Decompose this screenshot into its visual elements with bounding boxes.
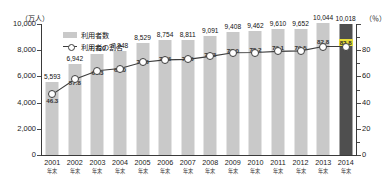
y-tick-left (37, 155, 41, 156)
y-tick-right (357, 155, 361, 156)
y-tick-label-left: 10,000 (2, 19, 36, 28)
legend-item-line: 利用者の割合 (63, 41, 123, 52)
line-marker (184, 55, 192, 63)
legend-label-ratio: 利用者の割合 (81, 42, 123, 52)
y-tick-right (357, 103, 361, 104)
y-tick-label-right: 0 (362, 150, 388, 159)
y-axis-right-unit: （％） (365, 13, 386, 23)
line-marker (274, 47, 282, 55)
y-tick-right (357, 37, 360, 38)
bar-value-label: 10,018 (336, 15, 356, 22)
y-tick-right (357, 50, 361, 51)
y-tick-right (357, 24, 361, 25)
line-marker (93, 67, 101, 75)
bar-value-label: 10,044 (313, 14, 333, 21)
x-axis-sublabel: 年末 (331, 167, 361, 174)
x-axis-label: 2014年末 (331, 158, 361, 174)
legend-label-users: 利用者数 (81, 30, 109, 40)
y-tick-label-right: 40 (362, 98, 388, 107)
line-marker (297, 47, 305, 55)
chart-container: （万人） （％） 02,0004,0006,0008,00010,000 020… (0, 0, 392, 190)
y-tick-right (357, 90, 360, 91)
line-marker (206, 52, 214, 60)
line-marker (161, 56, 169, 64)
y-tick-label-left: 2,000 (2, 124, 36, 133)
legend-line-icon (63, 43, 77, 50)
legend-swatch-icon (63, 32, 77, 38)
line-marker (116, 65, 124, 73)
legend-item-bar: 利用者数 (63, 29, 123, 40)
y-tick-label-right: 80 (362, 45, 388, 54)
y-tick-label-left: 0 (2, 150, 36, 159)
y-tick-right (357, 129, 361, 130)
line-marker (139, 58, 147, 66)
y-tick-label-left: 8,000 (2, 45, 36, 54)
line-marker (251, 49, 259, 57)
y-tick-right (357, 116, 360, 117)
x-axis-line (41, 155, 357, 156)
y-tick-right (357, 63, 360, 64)
line-marker (71, 75, 79, 83)
line-marker (319, 43, 327, 51)
y-tick-label-left: 6,000 (2, 71, 36, 80)
y-tick-label-right: 20 (362, 124, 388, 133)
y-tick-label-left: 4,000 (2, 98, 36, 107)
line-marker (342, 43, 350, 51)
y-tick-label-right: 60 (362, 71, 388, 80)
x-axis-year: 2014 (331, 158, 361, 167)
line-marker (48, 90, 56, 98)
x-axis-labels: 2001年末2002年末2003年末2004年末2005年末2006年末2007… (41, 158, 357, 188)
chart-legend: 利用者数 利用者の割合 (63, 29, 123, 53)
y-tick-right (357, 76, 361, 77)
y-tick-right (357, 142, 360, 143)
line-marker (229, 49, 237, 57)
